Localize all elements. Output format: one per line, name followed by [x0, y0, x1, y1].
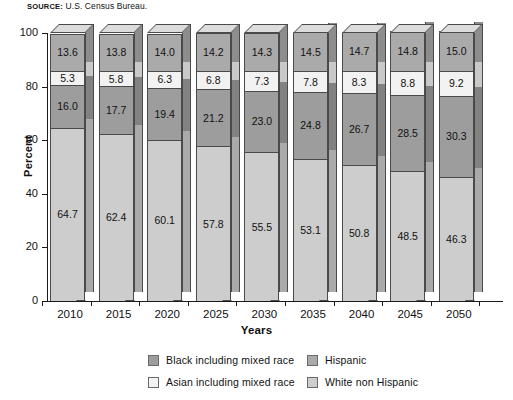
bar-segment[interactable]: 8.3: [342, 71, 377, 93]
bar-column[interactable]: 60.119.46.314.0: [147, 0, 191, 301]
segment-divider: [342, 71, 377, 72]
bar-segment[interactable]: 19.4: [147, 88, 182, 140]
x-tick: [334, 301, 335, 306]
segment-divider: [196, 89, 231, 90]
bar-column[interactable]: 46.330.39.215.0: [439, 0, 483, 301]
bar-segment-value: 13.6: [51, 47, 84, 58]
bar-segment-value: 7.3: [245, 76, 278, 87]
bar-segment[interactable]: 8.8: [390, 71, 425, 95]
bar-segment[interactable]: 14.5: [293, 32, 328, 71]
bar-segment-value: 50.8: [343, 228, 376, 239]
bar-column[interactable]: 53.124.87.814.5: [293, 0, 337, 301]
bar-right-outline: [142, 24, 143, 292]
bar-segment-value: 9.2: [440, 78, 473, 89]
bar-right-outline: [287, 24, 288, 292]
bar-segment[interactable]: 6.3: [147, 71, 182, 88]
legend-swatch: [148, 377, 159, 388]
bar-right-outline: [482, 24, 483, 292]
bar-segment-value: 53.1: [294, 225, 327, 236]
bar-segment-value: 14.8: [391, 46, 424, 57]
x-tick: [431, 301, 432, 306]
bar-segment-value: 57.8: [197, 218, 230, 229]
bar-segment[interactable]: 5.8: [99, 71, 134, 87]
bar-segment[interactable]: 21.2: [196, 89, 231, 146]
segment-divider: [50, 71, 85, 72]
bar-column[interactable]: 62.417.75.813.8: [99, 0, 143, 301]
segment-divider: [99, 34, 134, 35]
x-axis-title: Years: [0, 324, 513, 336]
bar-segment[interactable]: 14.3: [244, 33, 279, 71]
bar-segment[interactable]: 64.7: [50, 128, 85, 301]
bar-right-outline: [336, 24, 337, 292]
bar-column[interactable]: 55.523.07.314.3: [244, 0, 288, 301]
bar-column[interactable]: 57.821.26.814.2: [196, 0, 240, 301]
bar-segment[interactable]: 26.7: [342, 93, 377, 165]
segment-divider: [293, 159, 328, 160]
bar-segment[interactable]: 30.3: [439, 96, 474, 177]
x-tick: [188, 301, 189, 306]
bar-segment[interactable]: 28.5: [390, 95, 425, 171]
segment-divider: [439, 177, 474, 178]
legend-item[interactable]: Asian including mixed race: [148, 376, 295, 388]
bar-segment[interactable]: 48.5: [390, 171, 425, 301]
bar-right-outline: [433, 24, 434, 292]
bar-column[interactable]: 48.528.58.814.8: [390, 0, 434, 301]
bar-segment[interactable]: 7.3: [244, 71, 279, 91]
bar-segment-value: 21.2: [197, 112, 230, 123]
bar-segment-value: 55.5: [245, 221, 278, 232]
bar-segment-value: 6.3: [148, 74, 181, 85]
x-tick: [479, 301, 480, 306]
bar-segment[interactable]: 15.0: [439, 31, 474, 71]
bar-segment[interactable]: 17.7: [99, 86, 134, 133]
bar-segment[interactable]: 13.6: [50, 34, 85, 70]
legend-label: White non Hispanic: [325, 376, 418, 388]
x-tick: [285, 301, 286, 306]
bar-segment-value: 26.7: [343, 124, 376, 135]
x-tick-label: 2050: [429, 308, 489, 320]
legend-item[interactable]: Black including mixed race: [148, 354, 294, 366]
bar-segment[interactable]: 57.8: [196, 146, 231, 301]
bar-segment[interactable]: 55.5: [244, 152, 279, 301]
segment-divider: [293, 92, 328, 93]
bar-segment-value: 24.8: [294, 120, 327, 131]
chart-legend: Black including mixed raceHispanicAsian …: [0, 352, 513, 398]
legend-item[interactable]: White non Hispanic: [307, 376, 418, 388]
segment-divider: [196, 146, 231, 147]
bar-segment-value: 23.0: [245, 116, 278, 127]
bar-segment[interactable]: 9.2: [439, 71, 474, 96]
bar-segment-value: 14.0: [148, 47, 181, 58]
segment-divider: [50, 85, 85, 86]
bar-column[interactable]: 50.826.78.314.7: [342, 0, 386, 301]
legend-label: Hispanic: [325, 354, 366, 366]
bar-segment[interactable]: 53.1: [293, 159, 328, 301]
bar-segment[interactable]: 23.0: [244, 91, 279, 153]
legend-item[interactable]: Hispanic: [307, 354, 366, 366]
bar-column[interactable]: 64.716.05.313.6: [50, 0, 94, 301]
bars-layer: 64.716.05.313.662.417.75.813.860.119.46.…: [0, 0, 513, 302]
segment-divider: [342, 165, 377, 166]
bar-segment[interactable]: 13.8: [99, 34, 134, 71]
bar-segment[interactable]: 46.3: [439, 177, 474, 301]
bar-segment[interactable]: 14.8: [390, 31, 425, 71]
bar-segment-value: 15.0: [440, 46, 473, 57]
bar-segment[interactable]: 5.3: [50, 71, 85, 85]
bar-segment-value: 46.3: [440, 234, 473, 245]
bar-segment[interactable]: 16.0: [50, 85, 85, 128]
bar-segment[interactable]: 62.4: [99, 134, 134, 301]
bar-segment[interactable]: 14.7: [342, 32, 377, 71]
bar-segment[interactable]: 14.2: [196, 33, 231, 71]
bar-segment-value: 62.4: [100, 212, 133, 223]
bar-segment[interactable]: 6.8: [196, 71, 231, 89]
x-tick: [382, 301, 383, 306]
bar-segment[interactable]: 14.0: [147, 34, 182, 72]
segment-divider: [147, 34, 182, 35]
bar-segment-value: 60.1: [148, 215, 181, 226]
bar-segment[interactable]: 50.8: [342, 165, 377, 301]
bar-segment[interactable]: 7.8: [293, 71, 328, 92]
bar-segment-value: 6.8: [197, 75, 230, 86]
bar-segment[interactable]: 24.8: [293, 92, 328, 158]
bar-segment[interactable]: 60.1: [147, 140, 182, 301]
bar-right-outline: [239, 24, 240, 292]
bar-segment-value: 13.8: [100, 47, 133, 58]
bar-segment-value: 5.3: [51, 72, 84, 83]
